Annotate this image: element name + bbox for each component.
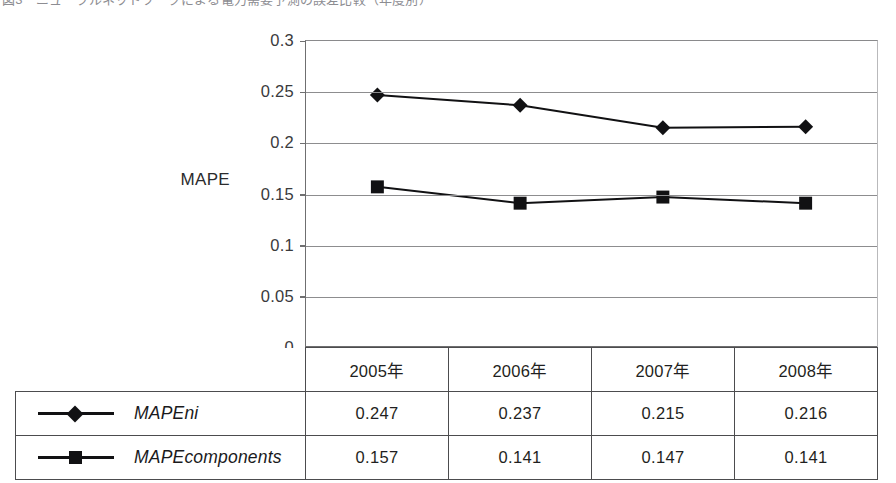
table-header-year: 2005年 bbox=[306, 348, 449, 392]
y-axis-title: MAPE bbox=[150, 170, 230, 190]
chart-area: MAPE 00.050.10.150.20.250.3 bbox=[0, 0, 896, 348]
y-tick-label: 0.1 bbox=[270, 235, 294, 254]
legend-entry: MAPEni bbox=[16, 403, 305, 425]
gridline bbox=[306, 195, 877, 196]
data-point-diamond bbox=[370, 88, 385, 103]
table-header-year: 2006年 bbox=[449, 348, 592, 392]
y-tick-label: 0.3 bbox=[270, 31, 294, 50]
y-axis-tick bbox=[300, 194, 306, 196]
table-value-cell: 0.147 bbox=[592, 436, 735, 480]
y-axis-tick bbox=[300, 92, 306, 94]
table-value-cell: 0.141 bbox=[735, 436, 878, 480]
data-point-square bbox=[799, 197, 812, 210]
plot-area bbox=[305, 40, 878, 347]
data-table-wrap: 2005年2006年2007年2008年MAPEni0.2470.2370.21… bbox=[0, 347, 896, 483]
data-point-diamond bbox=[513, 98, 528, 113]
legend-marker-square-icon bbox=[69, 451, 82, 464]
table-row: MAPEni0.2470.2370.2150.216 bbox=[16, 392, 878, 436]
legend-cell-mapecomponents: MAPEcomponents bbox=[16, 436, 306, 480]
y-tick-label: 0.05 bbox=[261, 286, 294, 305]
data-point-square bbox=[371, 180, 384, 193]
y-tick-label: 0.25 bbox=[261, 82, 294, 101]
table-value-cell: 0.237 bbox=[449, 392, 592, 436]
legend-cell-mapeni: MAPEni bbox=[16, 392, 306, 436]
data-point-diamond bbox=[798, 119, 813, 134]
legend-label: MAPEni bbox=[114, 403, 198, 424]
table-value-cell: 0.141 bbox=[449, 436, 592, 480]
legend-diamond-icon bbox=[38, 403, 114, 425]
y-tick-label: 0.15 bbox=[261, 184, 294, 203]
data-table: 2005年2006年2007年2008年MAPEni0.2470.2370.21… bbox=[15, 347, 878, 480]
table-header-year: 2008年 bbox=[735, 348, 878, 392]
legend-marker-diamond-icon bbox=[67, 405, 84, 422]
table-value-cell: 0.216 bbox=[735, 392, 878, 436]
gridline bbox=[306, 143, 877, 144]
table-value-cell: 0.247 bbox=[306, 392, 449, 436]
y-axis-tick bbox=[300, 41, 306, 43]
table-corner-blank bbox=[16, 348, 306, 392]
y-tick-label: 0.2 bbox=[270, 133, 294, 152]
legend-label: MAPEcomponents bbox=[114, 447, 282, 468]
gridline bbox=[306, 92, 877, 93]
table-header-year: 2007年 bbox=[592, 348, 735, 392]
data-point-square bbox=[514, 197, 527, 210]
y-axis-tick bbox=[300, 245, 306, 247]
y-axis-tick bbox=[300, 296, 306, 298]
table-header-row: 2005年2006年2007年2008年 bbox=[16, 348, 878, 392]
y-axis-tick-labels: 00.050.10.150.20.250.3 bbox=[232, 40, 294, 347]
series-line-mapeni bbox=[377, 95, 805, 128]
table-row: MAPEcomponents0.1570.1410.1470.141 bbox=[16, 436, 878, 480]
gridline bbox=[306, 297, 877, 298]
legend-entry: MAPEcomponents bbox=[16, 447, 305, 469]
table-value-cell: 0.215 bbox=[592, 392, 735, 436]
gridline bbox=[306, 246, 877, 247]
legend-square-icon bbox=[38, 447, 114, 469]
figure-root: 図3 ニューラルネットワークによる電力需要予測の誤差比較（年度別） MAPE 0… bbox=[0, 0, 896, 483]
data-point-square bbox=[656, 191, 669, 204]
table-value-cell: 0.157 bbox=[306, 436, 449, 480]
data-point-diamond bbox=[655, 120, 670, 135]
y-axis-tick bbox=[300, 143, 306, 145]
